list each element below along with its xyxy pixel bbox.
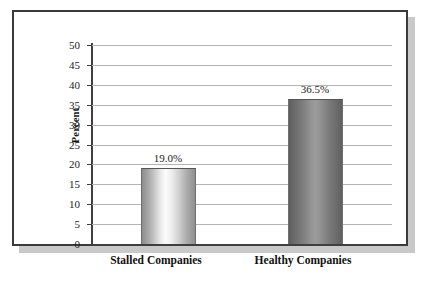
y-axis-tick-label: 15 (58, 179, 80, 190)
x-axis-category-label: Stalled Companies (81, 255, 231, 267)
y-axis-tick-label: 5 (58, 219, 80, 230)
y-axis-tick-mark (87, 125, 92, 126)
y-axis-tick-label: 30 (58, 120, 80, 131)
bar[interactable] (141, 168, 196, 244)
plot-area: 05101520253035404550 19.0%36.5% (92, 45, 392, 244)
y-axis-tick-label: 50 (58, 40, 80, 51)
gridline (92, 125, 392, 126)
gridline (92, 164, 392, 165)
y-axis-tick-mark (87, 105, 92, 106)
gridline (92, 145, 392, 146)
y-axis-tick-mark (87, 85, 92, 86)
y-axis-tick-mark (87, 145, 92, 146)
gridline (92, 65, 392, 66)
y-axis-tick-label: 10 (58, 199, 80, 210)
bar-value-label: 19.0% (128, 153, 208, 164)
y-axis-tick-mark (87, 164, 92, 165)
gridline (92, 184, 392, 185)
y-axis-tick-label: 0 (58, 239, 80, 250)
y-axis-tick-label: 25 (58, 140, 80, 151)
bar[interactable] (288, 99, 343, 244)
y-axis-tick-label: 40 (58, 80, 80, 91)
y-axis-tick-mark (87, 65, 92, 66)
bar-value-label: 36.5% (275, 84, 355, 95)
y-axis-tick-mark (87, 244, 92, 245)
y-axis-tick-mark (87, 45, 92, 46)
y-axis-tick-mark (87, 224, 92, 225)
y-axis-tick-mark (87, 184, 92, 185)
chart-figure-frame: Percent 05101520253035404550 19.0%36.5% … (12, 10, 408, 246)
x-axis-category-label: Healthy Companies (228, 255, 378, 267)
y-axis-tick-mark (87, 204, 92, 205)
gridline (92, 45, 392, 46)
y-axis-tick-label: 20 (58, 159, 80, 170)
gridline (92, 224, 392, 225)
x-axis-line (91, 244, 393, 246)
y-axis-tick-label: 35 (58, 100, 80, 111)
gridline (92, 105, 392, 106)
y-axis-tick-label: 45 (58, 60, 80, 71)
gridline (92, 204, 392, 205)
